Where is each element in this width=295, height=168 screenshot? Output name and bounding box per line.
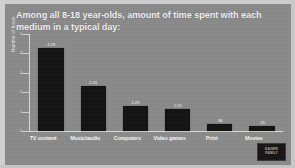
bar (123, 106, 148, 131)
x-axis-category-label: Print (191, 135, 233, 142)
bar (207, 124, 232, 131)
slide-title: Among all 8-18 year-olds, amount of time… (16, 10, 271, 33)
y-axis-tick (22, 112, 29, 113)
bar-series: 4.292.311.291:13.38.25 (30, 34, 283, 131)
y-axis-tick-label: 5 (14, 32, 22, 36)
bar-slot: 1:13 (165, 34, 190, 131)
x-axis-category-labels: TV contentMusic/audioComputersVideo game… (13, 135, 285, 147)
bar-slot: .38 (207, 34, 232, 131)
watermark-line-2: FAMILY (265, 152, 278, 156)
x-axis-category-label: Video games (149, 135, 191, 142)
y-axis-tick (22, 73, 29, 74)
bar-value-label: 2.31 (81, 80, 106, 85)
bar-value-label: 1.29 (123, 100, 148, 105)
bar-slot: .25 (249, 34, 274, 131)
bar (249, 126, 274, 131)
bar-value-label: .25 (249, 120, 274, 125)
bar-slot: 4.29 (38, 34, 63, 131)
y-axis-tick-label: 0 (14, 129, 22, 133)
y-axis-label: Number of hours (11, 0, 16, 52)
bar (81, 86, 106, 131)
y-axis-tick-label: 3 (14, 71, 22, 75)
page-edge-right (291, 0, 295, 168)
slide-canvas: Among all 8-18 year-olds, amount of time… (0, 0, 295, 168)
chart-plot-area: Number of hours 012345 4.292.311.291:13.… (13, 34, 285, 134)
y-axis-tick (22, 131, 29, 132)
y-axis-tick (22, 92, 29, 93)
y-axis-tick (22, 53, 29, 54)
bar (165, 109, 190, 131)
x-axis-category-label: TV content (22, 135, 64, 142)
slide-body: Among all 8-18 year-olds, amount of time… (5, 4, 291, 165)
x-axis-category-label: Computers (106, 135, 148, 142)
page-edge-bottom (0, 165, 295, 168)
organization-watermark: KAISER FAMILY (257, 143, 286, 161)
x-axis-category-label: Music/audio (64, 135, 106, 142)
bar-slot: 1.29 (123, 34, 148, 131)
bar-value-label: 1:13 (165, 103, 190, 108)
x-axis-category-label: Movies (233, 135, 275, 142)
y-axis-tick-label: 2 (14, 90, 22, 94)
bar-value-label: 4.29 (38, 42, 63, 47)
bar (38, 48, 63, 131)
y-axis-tick (22, 34, 29, 35)
y-axis-tick-label: 1 (14, 110, 22, 114)
y-axis-tick-label: 4 (14, 51, 22, 55)
bar-slot: 2.31 (81, 34, 106, 131)
bar-value-label: .38 (207, 118, 232, 123)
x-axis-line (29, 131, 283, 132)
